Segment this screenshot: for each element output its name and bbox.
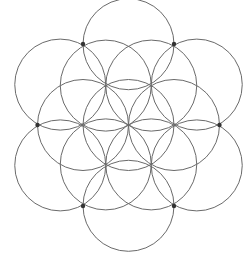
dot-bottom-right bbox=[172, 204, 176, 208]
dot-top-left bbox=[81, 42, 85, 46]
dot-left bbox=[35, 123, 39, 127]
circle-outer-s bbox=[83, 160, 174, 251]
dot-right bbox=[217, 123, 221, 127]
dot-top-right bbox=[172, 42, 176, 46]
flower-of-life-diagram bbox=[0, 0, 250, 266]
circle-outer-n bbox=[83, 0, 174, 90]
dot-bottom-left bbox=[81, 204, 85, 208]
circle-pattern-svg bbox=[0, 0, 250, 266]
circles-layer bbox=[15, 0, 243, 251]
